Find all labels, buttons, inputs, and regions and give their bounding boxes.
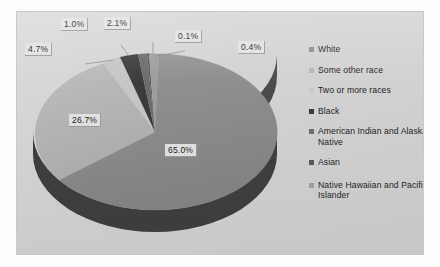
legend-item-white[interactable]: White <box>309 44 424 55</box>
legend-item-two-or-more-races[interactable]: Two or more races <box>309 85 424 96</box>
pie-graphic <box>25 34 285 239</box>
legend-item-native-hawaiian-pacific-islander[interactable]: Native Hawaiian and Pacific Islander <box>309 180 424 201</box>
legend-label: Some other race <box>318 65 383 76</box>
legend-swatch-icon <box>309 129 314 134</box>
legend-label: American Indian and Alaska Native <box>318 126 424 147</box>
slice-label-some-other-race: 26.7% <box>69 114 101 127</box>
legend-label: Two or more races <box>318 85 391 96</box>
legend-swatch-icon <box>309 160 314 165</box>
legend-swatch-icon <box>309 88 314 93</box>
legend-label: Black <box>318 106 340 117</box>
legend-item-asian[interactable]: Asian <box>309 157 424 168</box>
pie-svg <box>25 34 285 239</box>
slice-label-white: 65.0% <box>165 144 197 157</box>
legend-swatch-icon <box>309 68 314 73</box>
slice-label-american-indian-alaska-native: 1.0% <box>61 18 88 31</box>
slice-label-native-hawaiian-pacific-islander: 0.4% <box>238 41 265 54</box>
legend-label: Native Hawaiian and Pacific Islander <box>318 180 424 201</box>
legend-item-american-indian-alaska-native[interactable]: American Indian and Alaska Native <box>309 126 424 147</box>
slice-label-two-or-more-races: 4.7% <box>25 43 52 56</box>
plot-area: 1.0% 2.1% 0.1% 0.4% 4.7% 26.7% 65.0% Whi… <box>16 11 424 255</box>
legend-swatch-icon <box>309 183 314 188</box>
legend-label: Asian <box>318 157 340 168</box>
legend-item-some-other-race[interactable]: Some other race <box>309 65 424 76</box>
legend-label: White <box>318 44 340 55</box>
slice-label-asian: 0.1% <box>175 30 202 43</box>
pie-chart-figure: 1.0% 2.1% 0.1% 0.4% 4.7% 26.7% 65.0% Whi… <box>0 0 440 267</box>
legend: White Some other race Two or more races … <box>309 44 424 211</box>
legend-swatch-icon <box>309 47 314 52</box>
slice-label-black: 2.1% <box>104 17 131 30</box>
legend-item-black[interactable]: Black <box>309 106 424 117</box>
legend-swatch-icon <box>309 109 314 114</box>
